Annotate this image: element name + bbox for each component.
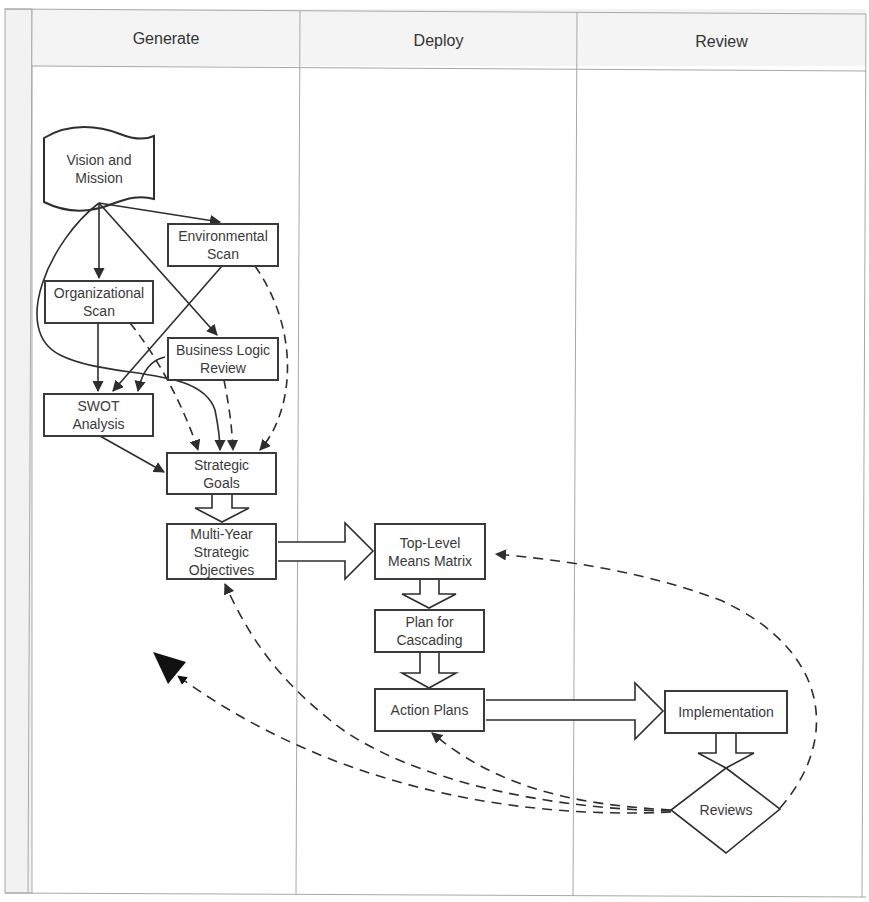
node-label: Organizational Scan	[54, 284, 144, 320]
node-label: Strategic Goals	[194, 456, 249, 492]
block-arrow-action-impl	[486, 683, 663, 739]
node-business-logic-review: Business Logic Review	[167, 337, 279, 381]
node-implementation: Implementation	[664, 690, 788, 734]
node-label: Vision and Mission	[66, 151, 131, 187]
node-label: Reviews	[700, 801, 753, 819]
node-label: Environmental Scan	[178, 227, 268, 263]
node-label: Top-Level Means Matrix	[388, 534, 472, 570]
node-environmental-scan: Environmental Scan	[167, 223, 279, 267]
connectors	[0, 0, 869, 902]
block-arrow-multiyear-toplevel	[278, 523, 373, 579]
block-arrow-toplevel-cascading	[402, 580, 456, 608]
node-strategic-goals: Strategic Goals	[166, 452, 277, 495]
node-action-plans: Action Plans	[374, 688, 485, 732]
node-plan-for-cascading: Plan for Cascading	[374, 609, 485, 653]
node-label: Plan for Cascading	[396, 613, 462, 649]
node-reviews: Reviews	[686, 798, 766, 822]
node-label: Action Plans	[391, 701, 469, 719]
block-arrow-cascading-action	[402, 653, 456, 688]
node-label: Implementation	[678, 703, 774, 721]
node-swot-analysis: SWOT Analysis	[43, 393, 154, 437]
node-label: Business Logic Review	[176, 341, 270, 377]
node-top-level-means-matrix: Top-Level Means Matrix	[374, 523, 486, 580]
node-label: Multi-Year Strategic Objectives	[189, 525, 254, 579]
node-vision-and-mission: Vision and Mission	[44, 140, 154, 198]
block-arrow-goals-multiyear	[195, 495, 249, 522]
node-multi-year-strategic-objectives: Multi-Year Strategic Objectives	[166, 523, 277, 580]
node-label: SWOT Analysis	[72, 397, 124, 433]
block-arrow-impl-reviews	[698, 734, 754, 768]
node-organizational-scan: Organizational Scan	[44, 280, 154, 324]
swimlane-diagram: Generate Deploy Review	[0, 0, 869, 902]
